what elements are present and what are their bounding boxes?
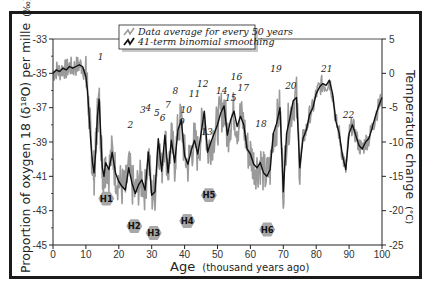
right-tick-label: -25 — [389, 240, 404, 251]
heinrich-label: H2 — [128, 221, 141, 231]
interstadial-label: 2 — [126, 120, 133, 130]
right-tick-label: -15 — [389, 171, 404, 182]
right-tick-label: -5 — [389, 102, 398, 113]
left-tick-label: -33 — [33, 34, 48, 45]
interstadial-label: 4 — [145, 103, 152, 113]
interstadial-label: 9 — [179, 117, 185, 127]
legend-item-smooth: 41-term binomial smoothing — [137, 36, 275, 47]
bottom-tick-label: 20 — [113, 249, 125, 260]
right-tick-label: 5 — [389, 34, 395, 45]
bottom-tick-label: 50 — [212, 249, 224, 260]
interstadial-label: 18 — [255, 119, 267, 129]
bottom-tick-label: 60 — [245, 249, 257, 260]
left-tick-label: -43 — [33, 205, 48, 216]
raw-data-series — [53, 57, 382, 211]
bottom-axis-label: Age (thousand years ago) — [170, 259, 309, 274]
bottom-tick-label: 100 — [374, 249, 391, 260]
bottom-axis-ticks: 0102030405060708090100 — [50, 245, 391, 260]
heinrich-event-labels: H1H2H3H4H5H6 — [98, 188, 275, 240]
right-axis-ticks: 50-5-10-15-20-25 — [382, 34, 404, 251]
heinrich-label: H3 — [147, 228, 160, 238]
left-axis-ticks: -33-35-37-39-41-43-45 — [33, 34, 53, 251]
heinrich-label: H1 — [100, 194, 113, 204]
bottom-tick-label: 90 — [344, 249, 356, 260]
legend: Data average for every 50 years 41-term … — [119, 25, 293, 52]
interstadial-label: 15 — [225, 93, 237, 103]
heinrich-label: H4 — [181, 216, 194, 226]
bottom-tick-label: 80 — [311, 249, 323, 260]
bottom-tick-label: 30 — [146, 249, 158, 260]
right-tick-label: 0 — [389, 68, 395, 79]
interstadial-label: 20 — [284, 81, 297, 91]
interstadial-label: 17 — [237, 83, 249, 93]
interstadial-label: 16 — [231, 72, 243, 82]
bottom-tick-label: 70 — [278, 249, 290, 260]
left-axis-label: Proportion of oxygen 18 (δ¹⁸O) per mille… — [18, 0, 33, 273]
interstadial-label: 6 — [160, 113, 166, 123]
interstadial-label: 12 — [197, 79, 209, 89]
left-tick-label: -39 — [33, 137, 48, 148]
heinrich-label: H5 — [202, 190, 215, 200]
bottom-tick-label: 0 — [50, 249, 56, 260]
interstadial-label: 13 — [201, 127, 213, 137]
heinrich-label: H6 — [261, 225, 274, 235]
right-axis-label: Temperature change (°C) — [403, 69, 418, 224]
interstadial-label: 1 — [98, 52, 104, 62]
left-tick-label: -45 — [33, 240, 48, 251]
left-tick-label: -37 — [33, 102, 48, 113]
interstadial-label: 10 — [181, 105, 193, 115]
interstadial-label: 8 — [173, 86, 179, 96]
right-tick-label: -10 — [389, 137, 404, 148]
interstadial-label: 21 — [320, 64, 332, 74]
interstadial-label: 11 — [189, 89, 200, 99]
left-tick-label: -41 — [33, 171, 48, 182]
raw-data-line — [53, 57, 382, 211]
right-tick-label: -20 — [389, 205, 404, 216]
bottom-tick-label: 10 — [80, 249, 92, 260]
interstadial-label: 22 — [342, 110, 355, 120]
ice-core-chart: -33-35-37-39-41-43-45 50-5-10-15-20-25 0… — [0, 0, 434, 292]
interstadial-label: 7 — [165, 100, 171, 110]
left-tick-label: -35 — [33, 68, 48, 79]
interstadial-label: 19 — [270, 64, 282, 74]
